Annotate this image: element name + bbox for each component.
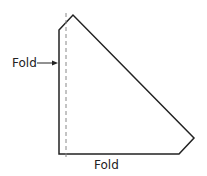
fold-diagram: Fold Fold [0,0,207,176]
shape-outline [59,15,194,154]
left-fold-label: Fold [12,56,37,70]
bottom-fold-label: Fold [94,158,119,172]
fold-arrow-head-icon [52,61,58,66]
